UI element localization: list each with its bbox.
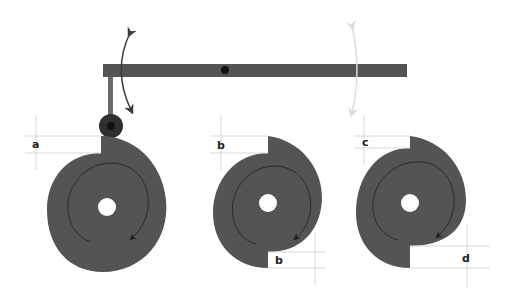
label-b-bottom: b: [275, 254, 283, 267]
pivot-point: [221, 66, 229, 74]
lever-arm: [103, 64, 407, 77]
cam-1: [47, 136, 166, 272]
cam-2: [213, 136, 322, 268]
label-d: d: [462, 252, 470, 265]
label-c: c: [362, 136, 369, 149]
label-a: a: [32, 138, 39, 151]
cam-3: [356, 136, 466, 268]
cam-mechanism-diagram: a b b c d: [0, 0, 509, 301]
label-b-top: b: [217, 139, 225, 152]
roller-follower: [99, 77, 123, 138]
